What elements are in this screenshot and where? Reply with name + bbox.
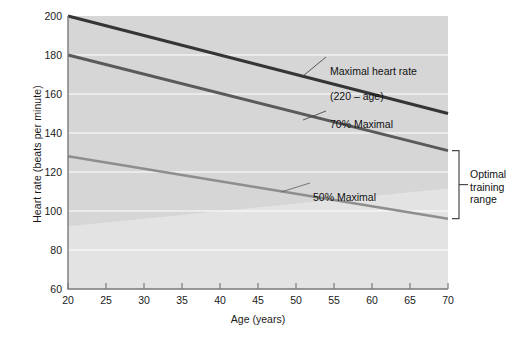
x-tick-label-50: 50 [279, 294, 313, 306]
x-tick-label-30: 30 [127, 294, 161, 306]
x-tick-label-55: 55 [317, 294, 351, 306]
x-tick-label-65: 65 [393, 294, 427, 306]
x-tick-label-70: 70 [431, 294, 465, 306]
annotation-maximal-heart-rate-line1: Maximal heart rate [330, 65, 417, 78]
chart-canvas [0, 0, 506, 337]
annotation-maximal-heart-rate-line2: (220 – age) [330, 90, 417, 103]
x-tick-label-25: 25 [89, 294, 123, 306]
y-tick-label-200: 200 [28, 10, 62, 22]
x-tick-label-35: 35 [165, 294, 199, 306]
optimal-training-range-label-line2: training [470, 181, 506, 194]
annotation-70-percent-maximal-line1: 70% Maximal [330, 118, 393, 131]
x-tick-label-20: 20 [51, 294, 85, 306]
x-tick-label-60: 60 [355, 294, 389, 306]
x-tick-label-45: 45 [241, 294, 275, 306]
heart-rate-training-zone-chart: 200 180 160 140 120 100 80 60 20 25 30 3… [0, 0, 506, 337]
y-axis-title: Heart rate (beats per minute) [31, 34, 43, 274]
optimal-training-range-label-line1: Optimal [470, 168, 506, 181]
annotation-50-percent-maximal-line1: 50% Maximal [313, 191, 376, 204]
x-tick-label-40: 40 [203, 294, 237, 306]
optimal-training-range-label-line3: range [470, 193, 506, 206]
optimal-training-range-bracket [452, 151, 468, 219]
annotation-50-percent-maximal: 50% Maximal [313, 178, 376, 216]
annotation-70-percent-maximal: 70% Maximal [330, 105, 393, 143]
optimal-training-range-label: Optimal training range [470, 168, 506, 206]
x-axis-title: Age (years) [68, 313, 448, 325]
